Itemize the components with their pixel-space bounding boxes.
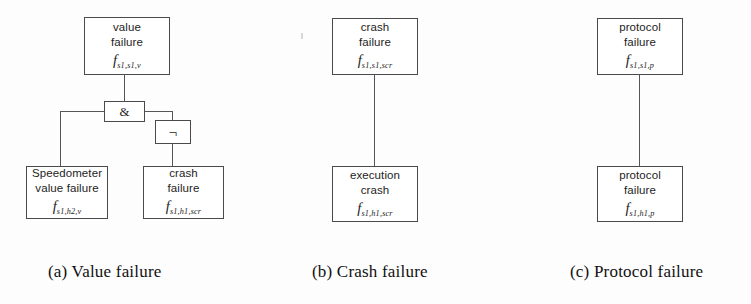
panel-c-bottom-node: protocol failure fs1,h1,p bbox=[597, 166, 683, 222]
panel-b-caption: (b) Crash failure bbox=[312, 262, 428, 282]
panel-a-left-leaf-line1: Speedometer bbox=[32, 166, 102, 181]
panel-a-top-node-math: fs1,s1,v bbox=[113, 53, 141, 73]
panel-c-bottom-node-math: fs1,h1,p bbox=[625, 201, 654, 221]
panel-a-right-leaf-line2: failure bbox=[167, 181, 199, 196]
panel-a-and-gate-label: & bbox=[119, 104, 129, 120]
panel-a-top-node-line1: value bbox=[113, 20, 141, 35]
panel-b-top-node-line1: crash bbox=[361, 20, 390, 35]
panel-c-top-node-math: fs1,s1,p bbox=[626, 53, 654, 73]
fault-tree-figure: value failure fs1,s1,v & ¬ Speedometer v… bbox=[0, 0, 751, 304]
panel-a-right-leaf-math-subscript: s1,h1,scr bbox=[170, 207, 201, 216]
panel-a-and-gate: & bbox=[104, 101, 145, 122]
panel-a-right-leaf-math: fs1,h1,scr bbox=[166, 199, 202, 219]
panel-a-caption: (a) Value failure bbox=[48, 262, 162, 282]
panel-a-right-leaf-line1: crash bbox=[169, 166, 198, 181]
panel-c-bottom-node-line2: failure bbox=[624, 183, 656, 198]
panel-c-bottom-node-math-subscript: s1,h1,p bbox=[630, 208, 655, 217]
panel-b-bottom-node-math: fs1,h1,scr bbox=[357, 201, 393, 221]
panel-b-top-node-math-subscript: s1,s1,scr bbox=[362, 61, 392, 70]
panel-b-bottom-node-line1: execution bbox=[350, 168, 400, 183]
panel-c-bottom-node-line1: protocol bbox=[619, 168, 661, 183]
panel-c-top-node-line1: protocol bbox=[619, 20, 661, 35]
panel-c-top-node-line2: failure bbox=[624, 35, 656, 50]
panel-b-bottom-node: execution crash fs1,h1,scr bbox=[332, 166, 418, 222]
panel-a-left-leaf-line2: value failure bbox=[35, 181, 98, 196]
panel-b-bottom-node-line2: crash bbox=[361, 183, 390, 198]
panel-a-left-leaf-math-subscript: s1,h2,v bbox=[57, 207, 82, 216]
panel-c-top-node: protocol failure fs1,s1,p bbox=[597, 18, 683, 75]
panel-a-left-leaf-node: Speedometer value failure fs1,h2,v bbox=[26, 166, 108, 219]
panel-a-top-node-line2: failure bbox=[111, 35, 143, 50]
panel-c-caption: (c) Protocol failure bbox=[570, 262, 703, 282]
panel-b-bottom-node-math-subscript: s1,h1,scr bbox=[361, 208, 392, 217]
panel-a-edge-not-to-right-leaf bbox=[172, 144, 173, 166]
panel-a-right-leaf-node: crash failure fs1,h1,scr bbox=[143, 166, 224, 219]
panel-b-edge-top-to-bottom bbox=[374, 75, 375, 166]
panel-a-edge-and-left-horizontal bbox=[60, 111, 104, 112]
panel-c-edge-top-to-bottom bbox=[639, 75, 640, 166]
panel-a-not-gate-label: ¬ bbox=[169, 125, 177, 140]
panel-a-edge-and-left-vertical bbox=[60, 111, 61, 166]
panel-b-top-node-line2: failure bbox=[359, 35, 391, 50]
panel-a-edge-and-right-horizontal bbox=[145, 111, 173, 112]
panel-c-top-node-math-subscript: s1,s1,p bbox=[630, 61, 654, 70]
panel-a-not-gate: ¬ bbox=[155, 120, 191, 144]
panel-a-top-node-math-subscript: s1,s1,v bbox=[117, 60, 141, 69]
panel-a-edge-top-to-and bbox=[124, 75, 125, 101]
panel-b-top-node: crash failure fs1,s1,scr bbox=[332, 18, 418, 75]
panel-b-top-node-math: fs1,s1,scr bbox=[358, 53, 393, 73]
panel-a-left-leaf-math: fs1,h2,v bbox=[53, 199, 82, 219]
panel-a-top-node: value failure fs1,s1,v bbox=[84, 17, 170, 75]
scan-artifact-speck bbox=[301, 33, 303, 39]
